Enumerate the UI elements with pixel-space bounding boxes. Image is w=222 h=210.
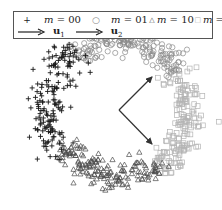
data-point xyxy=(96,151,101,156)
data-point xyxy=(196,144,201,149)
data-point xyxy=(192,84,197,89)
data-point xyxy=(95,162,100,167)
circle-marker-icon: ○ xyxy=(89,15,103,25)
plus-marker-icon: + xyxy=(20,15,34,25)
legend-val: 01 xyxy=(135,14,148,25)
vector-u2-arrow xyxy=(119,110,152,144)
triangle-marker-icon: △ xyxy=(148,15,156,25)
data-point xyxy=(120,55,125,60)
data-point xyxy=(30,85,35,90)
data-point xyxy=(46,100,51,105)
data-point xyxy=(68,105,73,110)
data-point xyxy=(125,181,130,186)
data-point xyxy=(77,71,82,76)
data-point xyxy=(44,148,49,153)
data-point xyxy=(137,150,142,155)
data-point xyxy=(88,43,93,48)
data-point xyxy=(27,135,32,140)
data-point xyxy=(184,47,189,52)
vector-subscript: 1 xyxy=(60,31,64,39)
data-point xyxy=(123,50,128,55)
data-point xyxy=(40,99,45,104)
data-point xyxy=(28,105,33,110)
legend-eq: = xyxy=(53,14,68,25)
legend-item-m01: ○ m = 01 xyxy=(89,14,148,25)
legend-item-m00: + m = 00 xyxy=(20,14,81,25)
series-11 xyxy=(153,65,222,176)
data-point xyxy=(51,111,56,116)
data-point xyxy=(35,157,40,162)
square-marker-icon: □ xyxy=(194,15,202,25)
data-point xyxy=(56,80,61,85)
legend-item-m10: △ m = 10 xyxy=(148,14,194,25)
data-point xyxy=(47,64,52,69)
data-point xyxy=(61,71,66,76)
data-point xyxy=(41,120,46,125)
arrow-right-icon xyxy=(17,27,47,37)
data-point xyxy=(71,180,76,185)
data-point xyxy=(52,62,57,67)
data-point xyxy=(51,89,56,94)
data-point xyxy=(154,145,159,150)
legend-item-u1: u1 xyxy=(17,25,75,39)
data-point xyxy=(74,137,79,142)
legend-eq: = xyxy=(120,14,135,25)
data-point xyxy=(105,49,110,54)
data-point xyxy=(42,57,47,62)
data-point xyxy=(123,46,128,51)
data-point xyxy=(216,119,221,124)
data-point xyxy=(174,113,179,118)
data-point xyxy=(154,40,159,45)
data-point xyxy=(62,58,67,63)
legend-eq: = xyxy=(166,14,181,25)
data-point xyxy=(118,163,123,168)
data-point xyxy=(155,65,160,70)
legend: + m = 00 ○ m = 01 △ m = 10 □ m = 11 u1 u… xyxy=(13,11,213,39)
data-point xyxy=(46,49,51,54)
arrow-right-icon xyxy=(75,27,105,37)
data-point xyxy=(86,61,91,66)
data-point xyxy=(127,152,132,157)
data-point xyxy=(88,70,93,75)
data-point xyxy=(194,65,199,70)
vector-arrows xyxy=(119,77,152,144)
vector-subscript: 2 xyxy=(118,31,122,39)
data-point xyxy=(54,53,59,58)
data-point xyxy=(45,113,50,118)
legend-row-vectors: u1 u2 xyxy=(14,25,133,38)
data-point xyxy=(45,89,50,94)
data-point xyxy=(68,79,73,84)
data-point xyxy=(48,113,53,118)
data-point xyxy=(153,176,158,181)
data-point xyxy=(49,143,54,148)
data-point xyxy=(39,82,44,87)
data-point xyxy=(51,134,56,139)
data-point xyxy=(38,134,43,139)
data-point xyxy=(71,60,76,65)
data-point xyxy=(72,171,77,176)
data-point xyxy=(155,75,160,80)
series-00 xyxy=(26,42,93,162)
legend-var: m xyxy=(157,14,166,25)
data-point xyxy=(48,70,53,75)
data-point xyxy=(26,96,31,101)
data-point xyxy=(35,81,40,86)
legend-item-u2: u2 xyxy=(75,25,133,39)
data-point xyxy=(150,63,155,68)
data-point xyxy=(38,111,43,116)
data-point xyxy=(181,61,186,66)
vector-u1-arrow xyxy=(119,77,152,110)
legend-val: 10 xyxy=(181,14,194,25)
data-point xyxy=(100,186,105,191)
data-point xyxy=(110,157,115,162)
data-point xyxy=(46,119,51,124)
data-point xyxy=(73,84,78,89)
data-point xyxy=(89,181,94,186)
data-point xyxy=(192,102,197,107)
data-point xyxy=(144,59,149,64)
data-point xyxy=(174,130,179,135)
data-point xyxy=(70,78,75,83)
legend-val: 00 xyxy=(68,14,81,25)
data-point xyxy=(97,47,102,52)
legend-item-m11: □ m = 11 xyxy=(194,14,222,25)
